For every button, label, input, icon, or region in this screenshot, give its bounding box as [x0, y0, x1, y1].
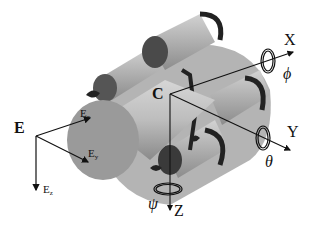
axis-label-y: Y	[287, 124, 299, 140]
body-origin-label: C	[152, 86, 164, 102]
inertial-frame-label: E	[14, 120, 25, 136]
axis-label-ez: Ez	[43, 184, 53, 197]
axis-label-ey: Ey	[88, 148, 98, 161]
angle-label-theta: θ	[265, 154, 273, 170]
axis-label-ex: Ex	[80, 108, 90, 121]
axis-label-x: X	[284, 32, 296, 48]
angle-label-psi: ψ	[148, 196, 158, 212]
angle-label-phi: ϕ	[283, 66, 291, 82]
robot-body	[67, 14, 271, 205]
axis-label-z: Z	[174, 203, 184, 219]
